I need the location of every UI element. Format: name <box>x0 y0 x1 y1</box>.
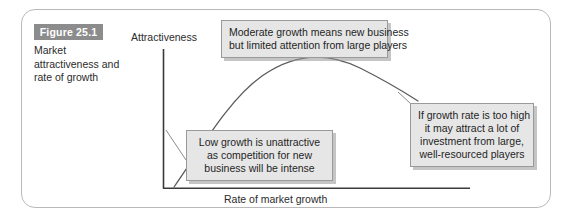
annotation-line: but limited attention from large players <box>229 39 380 52</box>
annotation-line: business will be intense <box>194 162 325 175</box>
annotation-line: Moderate growth means new business <box>229 26 380 39</box>
figure-screenshot: Figure 25.1 Market attractiveness and ra… <box>0 0 577 223</box>
annotation-line: it may attract a lot of <box>418 122 526 135</box>
figure-caption-line: Market <box>34 44 146 58</box>
annotation-line: well-resourced players <box>418 148 526 161</box>
annotation-line: If growth rate is too high <box>418 109 526 122</box>
figure-caption-line: rate of growth <box>34 71 146 85</box>
figure-caption: Market attractiveness and rate of growth <box>34 44 146 85</box>
annotation-moderate-growth: Moderate growth means new business but l… <box>221 20 388 58</box>
annotation-low-growth: Low growth is unattractive as competitio… <box>186 130 333 181</box>
x-axis-label: Rate of market growth <box>224 193 327 205</box>
annotation-line: as competition for new <box>194 149 325 162</box>
figure-caption-line: attractiveness and <box>34 58 146 72</box>
figure-number-label: Figure 25.1 <box>34 24 103 40</box>
annotation-line: Low growth is unattractive <box>194 136 325 149</box>
y-axis-label: Attractiveness <box>131 31 197 43</box>
annotation-high-growth: If growth rate is too high it may attrac… <box>410 103 534 167</box>
annotation-line: investment from large, <box>418 135 526 148</box>
